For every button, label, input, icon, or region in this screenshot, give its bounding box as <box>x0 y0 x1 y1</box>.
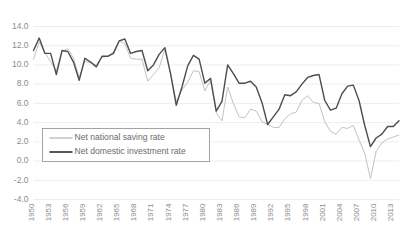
y-axis-tick-label: 8.0 <box>17 78 29 88</box>
x-axis-tick-label: 1953 <box>44 203 53 221</box>
x-axis-tick-label: 1965 <box>112 203 121 221</box>
x-axis-tick-label: 1986 <box>232 203 241 221</box>
y-axis-tick-label: 4.0 <box>17 117 29 127</box>
x-axis-tick-label: 2007 <box>352 203 361 221</box>
line-chart: 14.012.010.08.06.04.02.00.0-2.0-4.0 1950… <box>0 0 406 236</box>
y-axis-tick-label: 2.0 <box>17 136 29 146</box>
x-axis-tick-label: 1977 <box>181 203 190 221</box>
x-axis-tick-label: 1956 <box>61 203 70 221</box>
y-axis-tick-label: 6.0 <box>17 98 29 108</box>
y-axis-tick-label: -2.0 <box>14 175 29 185</box>
x-axis-tick-label: 2001 <box>318 203 327 221</box>
x-axis-tick-label: 1983 <box>215 203 224 221</box>
x-axis-tick-label: 2010 <box>369 203 378 221</box>
legend-label-1: Net domestic investment rate <box>75 146 187 156</box>
x-axis-tick-label: 1971 <box>146 203 155 221</box>
y-axis-tick-label: -4.0 <box>14 194 29 204</box>
chart-legend: Net national saving rateNet domestic inv… <box>43 129 210 162</box>
y-axis-tick-label: 14.0 <box>12 21 29 31</box>
legend-label-0: Net national saving rate <box>75 132 166 142</box>
x-axis-tick-label: 1998 <box>301 203 310 221</box>
chart-background <box>0 0 406 236</box>
x-axis-tick-label: 1980 <box>198 203 207 221</box>
x-axis-tick-label: 1992 <box>266 203 275 221</box>
x-axis-tick-label: 2004 <box>335 203 344 221</box>
chart-canvas: 14.012.010.08.06.04.02.00.0-2.0-4.0 1950… <box>0 0 406 236</box>
x-axis-tick-label: 1959 <box>78 203 87 221</box>
x-axis-tick-label: 1950 <box>27 203 36 221</box>
x-axis-tick-label: 1995 <box>283 203 292 221</box>
x-axis-tick-label: 1989 <box>249 203 258 221</box>
y-axis-tick-label: 10.0 <box>12 59 29 69</box>
x-axis-tick-label: 2013 <box>386 203 395 221</box>
y-axis-tick-label: 12.0 <box>12 40 29 50</box>
x-axis-tick-label: 1974 <box>164 203 173 221</box>
y-axis-tick-label: 0.0 <box>17 155 29 165</box>
x-axis-tick-label: 1962 <box>95 203 104 221</box>
x-axis-tick-label: 1968 <box>129 203 138 221</box>
